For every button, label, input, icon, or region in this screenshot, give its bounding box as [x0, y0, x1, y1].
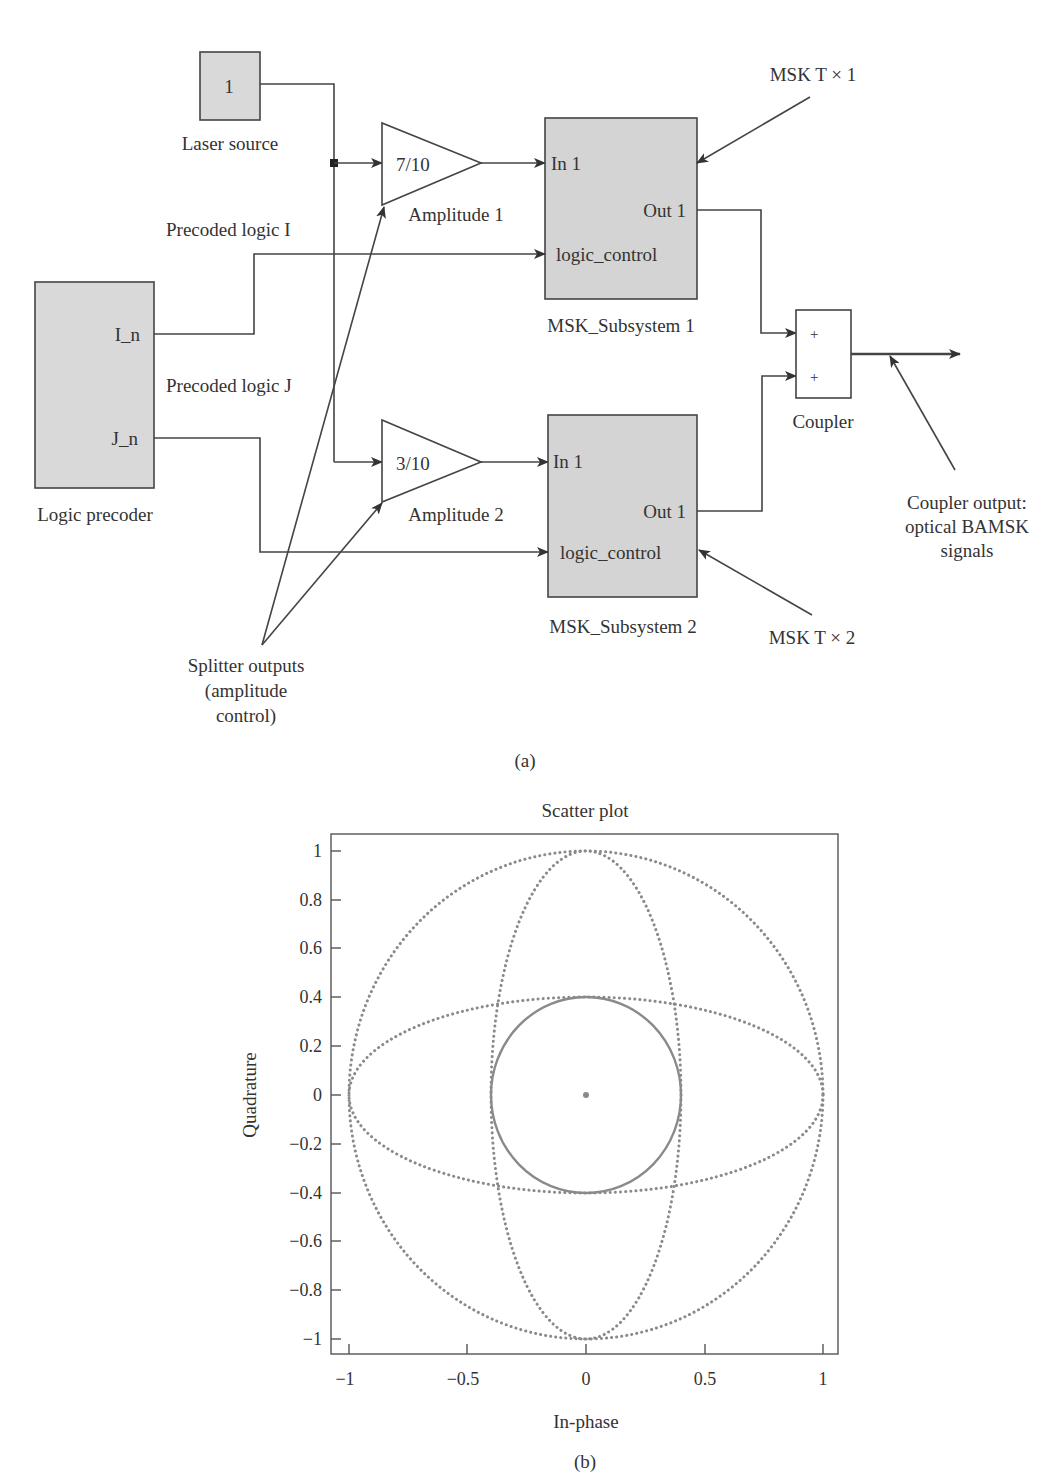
i-wire — [154, 254, 545, 334]
svg-text:−1: −1 — [303, 1329, 322, 1349]
msk1-logic-control-port: logic_control — [556, 244, 657, 265]
amplitude1-label: Amplitude 1 — [408, 204, 504, 225]
coupler-output-arrow — [890, 356, 955, 470]
msk-t2-label: MSK T × 2 — [769, 627, 856, 648]
port-i-n: I_n — [115, 324, 141, 345]
svg-text:−0.8: −0.8 — [289, 1280, 322, 1300]
msk2-in-port: In 1 — [553, 451, 583, 472]
logic-precoder-label: Logic precoder — [37, 504, 153, 525]
x-ticks — [349, 1344, 823, 1354]
y-axis-label: Quadrature — [239, 1052, 260, 1137]
msk-t2-arrow — [699, 550, 812, 615]
coupler-plus-2: + — [810, 369, 818, 385]
svg-text:0.2: 0.2 — [300, 1036, 323, 1056]
coupler-block — [796, 310, 851, 398]
figure: 1 Laser source 7/10 Amplitude 1 3/10 Amp… — [0, 0, 1056, 1481]
svg-text:−0.6: −0.6 — [289, 1231, 322, 1251]
svg-text:0.4: 0.4 — [300, 987, 323, 1007]
svg-text:0: 0 — [313, 1085, 322, 1105]
laser-source-value: 1 — [224, 76, 234, 97]
msk1-out-wire — [697, 210, 796, 333]
msk1-out-port: Out 1 — [643, 200, 686, 221]
svg-text:1: 1 — [313, 841, 322, 861]
logic-precoder-block — [35, 282, 154, 488]
precoded-logic-i-label: Precoded logic I — [166, 219, 291, 240]
coupler-output-line3: signals — [941, 540, 994, 561]
msk1-label: MSK_Subsystem 1 — [547, 315, 694, 336]
scatter-plot: Scatter plot 1 0.8 0.6 0.4 — [239, 800, 838, 1473]
caption-a: (a) — [514, 750, 535, 772]
msk2-out-wire — [697, 376, 796, 511]
coupler-output-line2: optical BAMSK — [905, 516, 1029, 537]
svg-text:0: 0 — [582, 1369, 591, 1389]
msk2-label: MSK_Subsystem 2 — [549, 616, 696, 637]
splitter-line3: control) — [216, 705, 276, 727]
msk2-logic-control-port: logic_control — [560, 542, 661, 563]
block-diagram — [35, 52, 960, 645]
msk-t1-arrow — [697, 97, 810, 163]
svg-text:−0.4: −0.4 — [289, 1183, 322, 1203]
svg-text:−1: −1 — [335, 1369, 354, 1389]
amplitude2-label: Amplitude 2 — [408, 504, 504, 525]
svg-text:−0.2: −0.2 — [289, 1134, 322, 1154]
splitter-line2: (amplitude — [205, 680, 287, 702]
coupler-output-line1: Coupler output: — [907, 492, 1027, 513]
laser-source-label: Laser source — [182, 133, 279, 154]
x-axis-label: In-phase — [553, 1411, 618, 1432]
msk-t1-label: MSK T × 1 — [770, 64, 857, 85]
precoded-logic-j-label: Precoded logic J — [166, 375, 292, 396]
y-tick-labels: 1 0.8 0.6 0.4 0.2 0 −0.2 −0.4 −0.6 −0.8 … — [289, 841, 322, 1349]
coupler-label: Coupler — [792, 411, 854, 432]
chart-title: Scatter plot — [541, 800, 629, 821]
splitter-arrow-1 — [262, 207, 384, 645]
msk1-in-port: In 1 — [551, 153, 581, 174]
port-j-n: J_n — [112, 428, 139, 449]
svg-text:0.6: 0.6 — [300, 938, 323, 958]
svg-text:0.5: 0.5 — [694, 1369, 717, 1389]
y-ticks — [331, 851, 341, 1339]
diagram-labels: 1 Laser source 7/10 Amplitude 1 3/10 Amp… — [37, 64, 1029, 772]
msk2-out-port: Out 1 — [643, 501, 686, 522]
svg-text:0.8: 0.8 — [300, 890, 323, 910]
data-series — [349, 851, 823, 1339]
origin-point — [583, 1092, 589, 1098]
caption-b: (b) — [574, 1451, 596, 1473]
splitter-line1: Splitter outputs — [188, 655, 305, 676]
coupler-plus-1: + — [810, 326, 818, 342]
x-tick-labels: −1 −0.5 0 0.5 1 — [335, 1369, 827, 1389]
splitter-arrow-2 — [262, 503, 382, 645]
svg-text:1: 1 — [819, 1369, 828, 1389]
svg-text:−0.5: −0.5 — [447, 1369, 480, 1389]
amplitude1-gain: 7/10 — [396, 154, 430, 175]
amplitude2-gain: 3/10 — [396, 453, 430, 474]
j-wire — [154, 438, 548, 552]
